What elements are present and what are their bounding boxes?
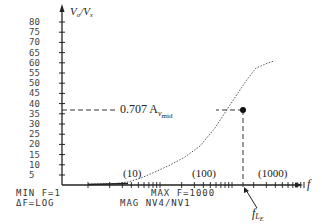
y-tick-label: 65 — [29, 48, 40, 58]
response-curve-low — [88, 184, 128, 185]
decade-label-100: (100) — [192, 167, 216, 180]
y-tick-label: 75 — [29, 27, 40, 37]
corner-point — [240, 107, 246, 113]
y-tick-labels: 8075706560555045403530252015105 — [29, 17, 40, 180]
delta-f-text: ΔF=LOG — [16, 198, 55, 208]
y-tick-label: 10 — [29, 160, 40, 170]
y-tick-label: 15 — [29, 150, 40, 160]
y-tick-label: 60 — [29, 58, 40, 68]
response-curve — [88, 61, 274, 184]
corner-pointer-arrow-icon — [244, 187, 249, 193]
y-tick-label: 40 — [29, 99, 40, 109]
min-f-text: MIN F=1 — [16, 188, 61, 198]
y-tick-label: 80 — [29, 17, 40, 27]
decade-label-10: (10) — [123, 167, 142, 180]
y-tick-label: 45 — [29, 88, 40, 98]
y-tick-label: 20 — [29, 139, 40, 149]
y-tick-label: 70 — [29, 37, 40, 47]
max-f-text: MAX F=1000 — [151, 188, 215, 198]
y-tick-label: 55 — [29, 68, 40, 78]
corner-freq-label: fLE — [252, 206, 264, 222]
y-tick-label: 5 — [29, 170, 34, 180]
x-axis-label: f — [307, 177, 312, 191]
bode-plot: 8075706560555045403530252015105 Vo/Vs f … — [0, 0, 322, 224]
y-axis-arrow-icon — [60, 4, 65, 12]
x-axis-arrow-icon — [295, 183, 303, 188]
y-tick-label: 25 — [29, 129, 40, 139]
y-tick-label: 35 — [29, 109, 40, 119]
y-tick-label: 50 — [29, 78, 40, 88]
y-tick-label: 30 — [29, 119, 40, 129]
mag-text: MAG NV4/NV1 — [120, 198, 191, 208]
y-axis-label: Vo/Vs — [70, 5, 93, 19]
decade-label-1000: (1000) — [258, 167, 288, 180]
